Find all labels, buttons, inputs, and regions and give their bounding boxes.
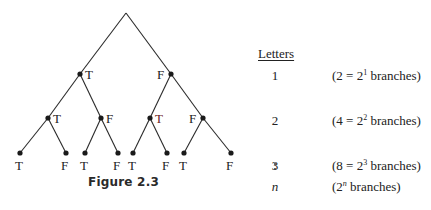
branches-expression: (8 = 23 branches) bbox=[332, 158, 421, 174]
node-label-t: T bbox=[15, 159, 23, 172]
node-label-t: T bbox=[179, 159, 187, 172]
vertical-ellipsis bbox=[274, 163, 276, 173]
node-label-f: F bbox=[226, 159, 233, 172]
node-label-t: T bbox=[85, 68, 93, 81]
node-label-t: T bbox=[53, 112, 61, 125]
letters-header: Letters bbox=[258, 46, 294, 62]
tree-edge bbox=[133, 118, 150, 153]
tree-node bbox=[130, 150, 135, 155]
node-label-f: F bbox=[162, 159, 169, 172]
branches-expression: (4 = 22 branches) bbox=[332, 113, 421, 129]
tree-edge bbox=[171, 74, 203, 118]
tree-node bbox=[115, 150, 120, 155]
tree-node bbox=[45, 115, 50, 120]
tree-node bbox=[228, 150, 233, 155]
tree-edge bbox=[203, 118, 231, 153]
letters-count: n bbox=[268, 179, 282, 195]
tree-edge bbox=[80, 13, 126, 74]
table-row: 1 (2 = 21 branches) bbox=[258, 68, 431, 84]
tree-node bbox=[17, 150, 22, 155]
node-label-f: F bbox=[189, 112, 196, 125]
node-label-t: T bbox=[128, 159, 136, 172]
tree-node bbox=[82, 150, 87, 155]
figure-caption: Figure 2.3 bbox=[88, 175, 159, 189]
node-label-f: F bbox=[61, 159, 68, 172]
branches-table: Letters 1 (2 = 21 branches) 2 (4 = 22 br… bbox=[258, 0, 431, 210]
tree-node bbox=[168, 71, 173, 76]
tree-edge bbox=[20, 118, 48, 153]
letters-count: 2 bbox=[268, 113, 282, 129]
node-label-f: F bbox=[106, 112, 113, 125]
table-row: 2 (4 = 22 branches) bbox=[258, 113, 431, 129]
tree-node bbox=[181, 150, 186, 155]
node-label-t: T bbox=[80, 159, 88, 172]
tree-node bbox=[200, 115, 205, 120]
tree-node bbox=[147, 115, 152, 120]
branches-expression: (2n branches) bbox=[332, 179, 401, 195]
table-row: n (2n branches) bbox=[258, 179, 431, 195]
tree-edge bbox=[85, 118, 101, 153]
node-label-f: F bbox=[157, 68, 164, 81]
branches-expression: (2 = 21 branches) bbox=[332, 68, 421, 84]
tree-node bbox=[164, 150, 169, 155]
tree-edge bbox=[126, 13, 171, 74]
table-row: 3 (8 = 23 branches) bbox=[258, 158, 431, 174]
tree-node bbox=[63, 150, 68, 155]
node-label-t: T bbox=[155, 112, 163, 125]
tree-node bbox=[77, 71, 82, 76]
node-label-f: F bbox=[113, 159, 120, 172]
letters-count: 1 bbox=[268, 68, 282, 84]
truth-tree-diagram bbox=[0, 0, 260, 175]
tree-node bbox=[98, 115, 103, 120]
